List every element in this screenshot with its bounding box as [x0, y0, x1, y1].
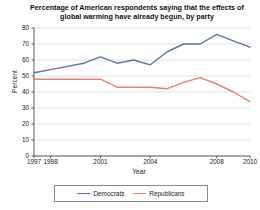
- plot-area: [0, 0, 260, 210]
- y-tick-label: 20: [11, 120, 29, 127]
- y-axis-label: Percent: [11, 57, 18, 107]
- x-tick-label: 2008: [204, 158, 230, 165]
- x-tick-label: 2004: [137, 158, 163, 165]
- legend-label-democrats: Democrats: [93, 190, 124, 197]
- chart-legend: Democrats Republicans: [54, 185, 208, 202]
- data-series: [34, 34, 250, 101]
- legend-item-republicans: Republicans: [133, 190, 184, 197]
- chart-container: Percentage of American respondents sayin…: [0, 0, 260, 210]
- x-axis-label: Year: [28, 168, 250, 175]
- axis-ticks: [32, 28, 251, 159]
- gridlines: [34, 28, 250, 156]
- y-tick-label: 80: [11, 24, 29, 31]
- y-tick-label: 70: [11, 40, 29, 47]
- legend-swatch-republicans: [133, 193, 146, 194]
- legend-label-republicans: Republicans: [149, 190, 184, 197]
- x-tick-label: 2010: [237, 158, 260, 165]
- legend-item-democrats: Democrats: [77, 190, 124, 197]
- y-tick-label: 10: [11, 136, 29, 143]
- x-tick-label: 2001: [87, 158, 113, 165]
- x-tick-label: 1998: [38, 158, 64, 165]
- legend-swatch-democrats: [77, 193, 90, 194]
